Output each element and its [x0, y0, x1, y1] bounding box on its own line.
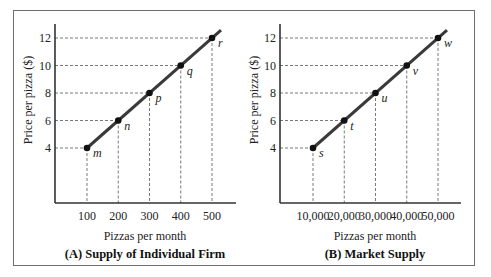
y-tick-label: 4 — [45, 141, 51, 155]
x-tick-label: 30,000 — [359, 209, 392, 223]
data-point — [403, 62, 410, 69]
y-tick-label: 6 — [270, 114, 276, 128]
point-label: p — [155, 91, 162, 105]
x-tick-label: 200 — [109, 209, 127, 223]
panel-title: (A) Supply of Individual Firm — [65, 247, 226, 261]
y-tick-label: 10 — [39, 59, 51, 73]
data-point — [372, 90, 379, 97]
data-point — [310, 145, 317, 152]
y-axis-label: Price per pizza ($) — [247, 56, 261, 144]
point-label: m — [93, 146, 102, 160]
panel-title: (B) Market Supply — [325, 247, 426, 261]
y-tick-label: 6 — [45, 114, 51, 128]
x-axis-label: Pizzas per month — [104, 229, 187, 243]
data-point — [209, 35, 216, 42]
point-label: w — [444, 36, 452, 50]
point-label: v — [413, 64, 419, 78]
point-label: s — [319, 146, 324, 160]
x-tick-label: 100 — [78, 209, 96, 223]
point-label: u — [382, 91, 388, 105]
point-label: n — [124, 119, 130, 133]
point-label: r — [218, 36, 223, 50]
x-tick-label: 500 — [203, 209, 221, 223]
data-point — [115, 117, 122, 124]
supply-charts: mnpqr4681012100200300400500Pizzas per mo… — [0, 0, 491, 277]
data-point — [146, 90, 153, 97]
y-tick-label: 8 — [45, 86, 51, 100]
x-tick-label: 300 — [141, 209, 159, 223]
y-tick-label: 4 — [270, 141, 276, 155]
point-label: q — [187, 64, 193, 78]
data-point — [341, 117, 348, 124]
y-tick-label: 10 — [264, 59, 276, 73]
y-tick-label: 12 — [264, 31, 276, 45]
supply-curve — [313, 30, 447, 148]
data-point — [435, 35, 442, 42]
x-tick-label: 50,000 — [422, 209, 455, 223]
x-tick-label: 10,000 — [297, 209, 330, 223]
data-point — [84, 145, 91, 152]
x-tick-label: 20,000 — [328, 209, 361, 223]
y-tick-label: 8 — [270, 86, 276, 100]
x-tick-label: 400 — [172, 209, 190, 223]
supply-curve — [87, 30, 221, 148]
y-axis-label: Price per pizza ($) — [21, 56, 35, 144]
data-point — [177, 62, 184, 69]
x-tick-label: 40,000 — [390, 209, 423, 223]
y-tick-label: 12 — [39, 31, 51, 45]
x-axis-label: Pizzas per month — [334, 229, 417, 243]
point-label: t — [350, 119, 354, 133]
